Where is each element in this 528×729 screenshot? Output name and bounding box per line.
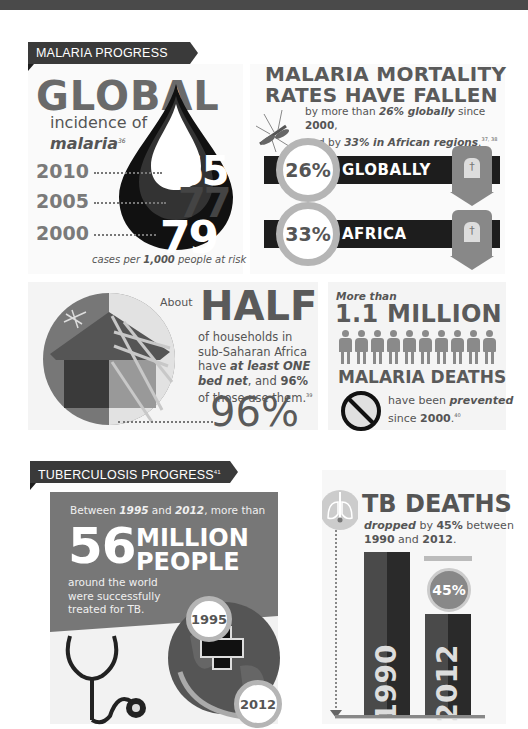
intro-bold: 2012 (175, 504, 204, 516)
treated-intro: Between 1995 and 2012, more than (70, 504, 265, 516)
person-icon (434, 330, 449, 364)
section-label-malaria: MALARIA PROGRESS (28, 42, 190, 64)
person-icon (354, 330, 369, 364)
desc-line: have at least ONE (198, 359, 312, 374)
desc-bold: at least ONE (230, 359, 310, 373)
prevented-desc: have been prevented since 2000.40 (388, 394, 513, 426)
desc-line: treated for TB. (68, 603, 160, 617)
desc-line: were successfully (68, 590, 160, 604)
person-icon (402, 330, 417, 364)
ring-percent: 33% (285, 223, 330, 245)
bar-label-1990: 1990 (364, 648, 410, 718)
tb-deaths-title: TB DEATHS (362, 491, 512, 517)
dotted-leader (94, 234, 156, 236)
desc-bold: prevented (449, 394, 513, 407)
desc-text: have been (388, 394, 449, 407)
about-text: About (160, 296, 193, 309)
year-label: 2000 (36, 222, 89, 244)
percent-ring-globally: 26% (276, 138, 340, 202)
dotted-leader (94, 172, 162, 174)
mortality-title-line2: RATES HAVE FALLEN (265, 85, 506, 106)
bar-label-2012: 2012 (425, 648, 471, 718)
people-icons-row (338, 330, 498, 364)
drop-arrow-bar (424, 556, 472, 561)
desc-bold: bed net (198, 374, 248, 388)
desc-bold: 2000 (420, 412, 451, 425)
big-word: PEOPLE (136, 550, 249, 574)
intro-text: Between (70, 504, 119, 516)
desc-line: bed net, and 96% (198, 374, 312, 389)
footnote: 39 (306, 392, 312, 398)
person-icon (482, 330, 497, 364)
desc-bold: 96% (280, 374, 308, 388)
band-label: AFRICA (342, 225, 407, 243)
mortality-desc: by more than 26% globally since 2000, an… (305, 104, 510, 149)
bar-1990: 1990 (364, 552, 410, 716)
desc-text: by (416, 519, 437, 532)
tb-deaths-desc: dropped by 45% between 1990 and 2012. (364, 519, 514, 547)
big-number-text: 56 (68, 517, 136, 575)
malaria-word: malaria (50, 134, 118, 153)
bednet-big-percent: 96% (210, 392, 299, 432)
baseline (335, 715, 485, 719)
big-word: MILLION (136, 526, 249, 550)
section-label-text: TUBERCULOSIS PROGRESS (38, 468, 214, 482)
desc-text: and (395, 533, 423, 546)
desc-text: . (453, 533, 457, 546)
arrow-down-icon (450, 256, 494, 270)
caption-bold: 1,000 (143, 254, 175, 265)
desc-bold: 45% (436, 519, 462, 532)
year-text: 2012 (240, 697, 276, 712)
drop-percent-text: 45% (432, 582, 466, 598)
year-label: 2005 (36, 190, 89, 212)
year-2000: 2000 (36, 222, 89, 244)
arrow-down-icon (450, 192, 494, 206)
year-2010: 2010 (36, 160, 89, 182)
desc-line: since 2000.40 (388, 408, 513, 426)
no-mosquito-icon (340, 390, 382, 432)
footnote: 40 (454, 412, 460, 418)
intro-text: , more than (204, 504, 265, 516)
desc-line: sub-Saharan Africa (198, 345, 312, 360)
mortality-title-line1: MALARIA MORTALITY (265, 64, 506, 85)
intro-bold: 1995 (119, 504, 148, 516)
half-text: HALF (200, 283, 317, 329)
header-band (0, 0, 528, 10)
desc-bold: 2012 (422, 533, 453, 546)
dotted-leader (118, 421, 213, 423)
treated-big-words: MILLION PEOPLE (136, 526, 249, 574)
person-icon (450, 330, 465, 364)
incidence-caption: cases per 1,000 people at risk (92, 254, 246, 265)
desc-line: of households in (198, 330, 312, 345)
desc-text: between (463, 519, 514, 532)
desc-text: since (388, 412, 420, 425)
person-icon (466, 330, 481, 364)
person-icon (338, 330, 353, 364)
bar-2012: 2012 (425, 614, 471, 716)
bednet-half: HALF (200, 284, 317, 328)
desc-line: around the world (68, 576, 160, 590)
desc-line: 1990 and 2012. (364, 533, 514, 547)
person-icon (386, 330, 401, 364)
year-label: 2010 (36, 160, 89, 182)
desc-bold: dropped (364, 519, 416, 532)
person-icon (418, 330, 433, 364)
year-text: 1995 (191, 612, 227, 627)
year-ring-2012: 2012 (234, 680, 282, 728)
year-ring-1995: 1995 (186, 596, 232, 642)
desc-text: , and (248, 374, 281, 388)
tombstone-icon: † (464, 222, 480, 242)
ring-percent: 26% (285, 159, 330, 181)
mortality-title: MALARIA MORTALITY RATES HAVE FALLEN (265, 64, 506, 106)
percent-ring-africa: 33% (276, 202, 340, 266)
desc-text: have (198, 359, 230, 373)
bednet-about: About (160, 296, 193, 309)
person-icon (370, 330, 385, 364)
prevented-big: 1.1 MILLION (335, 300, 502, 328)
intro-text: and (149, 504, 175, 516)
caption-text: cases per (92, 254, 143, 265)
treated-desc: around the world were successfully treat… (68, 576, 160, 617)
desc-bold: 26% globally (379, 105, 455, 117)
tombstone-icon: † (464, 158, 480, 178)
hut-bednet-illustration (42, 292, 176, 426)
